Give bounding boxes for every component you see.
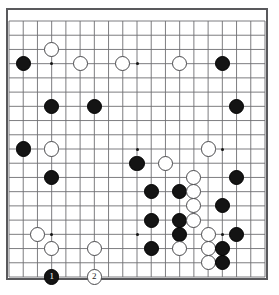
star-point (50, 233, 53, 236)
stone-black[interactable] (87, 99, 102, 114)
stone-white[interactable] (158, 156, 173, 171)
stone-black[interactable] (172, 213, 187, 228)
stone-black[interactable] (44, 99, 59, 114)
stone-white[interactable] (30, 227, 45, 242)
stone-black[interactable] (144, 213, 159, 228)
star-point (221, 148, 224, 151)
stone-black[interactable] (144, 184, 159, 199)
star-point (136, 233, 139, 236)
stone-white[interactable] (87, 241, 102, 256)
star-point (136, 62, 139, 65)
stone-black[interactable] (16, 141, 31, 156)
stone-black[interactable] (144, 241, 159, 256)
stone-white[interactable] (201, 255, 216, 270)
go-diagram: 12 (0, 0, 279, 295)
stone-move-2[interactable]: 2 (87, 269, 102, 284)
stone-white[interactable] (201, 241, 216, 256)
stone-black[interactable] (215, 56, 230, 71)
stone-black[interactable] (229, 99, 244, 114)
stone-white[interactable] (201, 227, 216, 242)
stone-move-1[interactable]: 1 (44, 269, 59, 284)
stone-white[interactable] (73, 56, 88, 71)
stone-black[interactable] (172, 227, 187, 242)
stone-white[interactable] (201, 141, 216, 156)
stone-black[interactable] (129, 156, 144, 171)
star-point (221, 233, 224, 236)
stone-black[interactable] (229, 227, 244, 242)
stone-black[interactable] (16, 56, 31, 71)
move-number-label: 1 (45, 270, 58, 283)
stone-black[interactable] (215, 241, 230, 256)
star-point (136, 148, 139, 151)
move-number-label: 2 (88, 270, 101, 283)
stone-white[interactable] (44, 141, 59, 156)
go-board: 12 (6, 8, 268, 280)
